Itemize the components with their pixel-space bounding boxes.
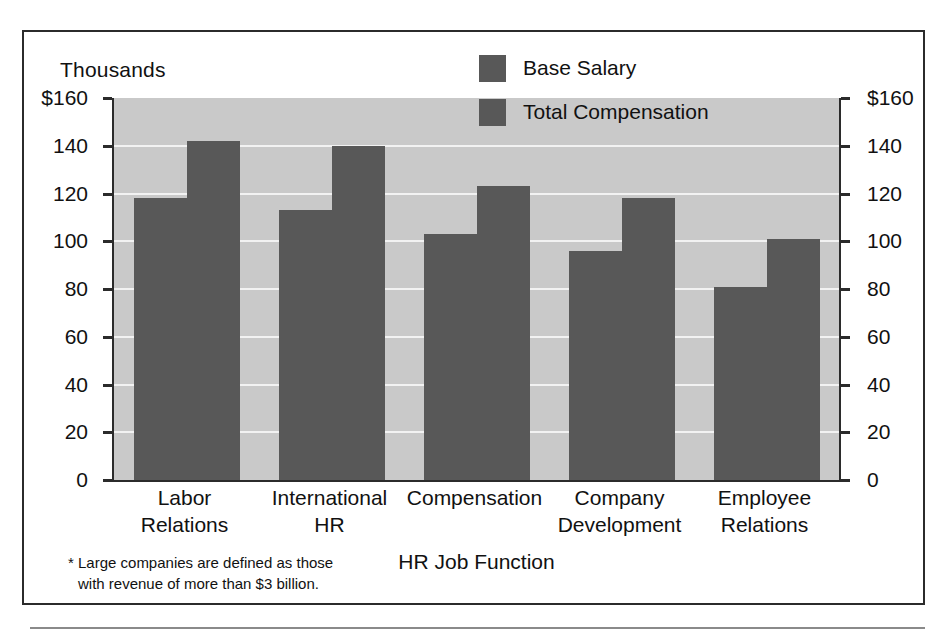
category-label-compensation: Compensation [402,484,547,511]
category-label-employee-relations: EmployeeRelations [692,484,837,538]
y-tick-label-left-140: 140 [53,135,88,156]
bar-base-salary-international-hr [279,210,332,480]
tick-right-40 [841,384,850,387]
y-tick-label-left-40: 40 [65,374,88,395]
category-label-labor-relations: LaborRelations [112,484,257,538]
figure-frame: Thousands 020406080100120140$160 0204060… [22,30,925,605]
y-tick-label-left-80: 80 [65,278,88,299]
footnote-line-1: * Large companies are defined as those [68,552,398,573]
bar-total-compensation-compensation [477,186,530,480]
legend-item-total-compensation[interactable]: Total Compensation [479,90,709,134]
tick-left-80 [103,288,112,291]
y-axis-units-label: Thousands [60,58,166,82]
category-label-line: International [257,484,402,511]
y-tick-label-right-120: 120 [867,183,902,204]
footnote-line-2: with revenue of more than $3 billion. [68,573,398,594]
y-tick-label-right-100: 100 [867,230,902,251]
tick-left-160 [103,97,112,100]
y-tick-label-right-60: 60 [867,326,890,347]
y-tick-label-right-20: 20 [867,421,890,442]
bar-base-salary-labor-relations [134,198,187,480]
category-label-line: HR [257,511,402,538]
tick-left-0 [103,479,112,482]
tick-left-40 [103,384,112,387]
y-tick-label-right-80: 80 [867,278,890,299]
y-tick-label-right-140: 140 [867,135,902,156]
tick-left-120 [103,193,112,196]
bar-total-compensation-employee-relations [767,239,820,480]
tick-right-0 [841,479,850,482]
tick-right-80 [841,288,850,291]
tick-right-160 [841,97,850,100]
tick-right-60 [841,336,850,339]
bar-total-compensation-company-development [622,198,675,480]
category-label-line: Compensation [402,484,547,511]
y-tick-label-right-160: $160 [867,87,914,108]
y-tick-label-left-60: 60 [65,326,88,347]
legend-swatch-icon [479,99,506,126]
legend-label: Base Salary [523,56,636,80]
tick-left-140 [103,145,112,148]
plot-area [112,98,841,482]
legend-swatch-icon [479,55,506,82]
bar-total-compensation-international-hr [332,146,385,480]
y-axis-right: 020406080100120140$160 [851,98,931,480]
category-label-line: Relations [692,511,837,538]
y-tick-label-right-40: 40 [867,374,890,395]
category-label-line: Employee [692,484,837,511]
category-label-line: Company [547,484,692,511]
bar-base-salary-compensation [424,234,477,480]
category-label-international-hr: InternationalHR [257,484,402,538]
page-divider-rule [30,627,925,629]
tick-right-100 [841,240,850,243]
legend-label: Total Compensation [523,100,709,124]
tick-right-120 [841,193,850,196]
y-axis-left: 020406080100120140$160 [24,98,100,480]
tick-right-20 [841,431,850,434]
chart-legend: Base SalaryTotal Compensation [479,46,709,134]
bar-base-salary-employee-relations [714,287,767,480]
y-tick-label-left-100: 100 [53,230,88,251]
bar-total-compensation-labor-relations [187,141,240,480]
category-label-line: Relations [112,511,257,538]
tick-left-60 [103,336,112,339]
y-tick-label-left-20: 20 [65,421,88,442]
category-label-company-development: CompanyDevelopment [547,484,692,538]
category-label-line: Labor [112,484,257,511]
y-tick-label-left-0: 0 [76,469,88,490]
tick-left-20 [103,431,112,434]
x-axis-category-labels: LaborRelationsInternationalHRCompensatio… [112,484,841,544]
tick-right-140 [841,145,850,148]
y-tick-label-right-0: 0 [867,469,879,490]
category-label-line: Development [547,511,692,538]
y-tick-label-left-160: $160 [41,87,88,108]
tick-left-100 [103,240,112,243]
y-tick-label-left-120: 120 [53,183,88,204]
legend-item-base-salary[interactable]: Base Salary [479,46,709,90]
bar-base-salary-company-development [569,251,622,480]
footnote: * Large companies are defined as those w… [68,552,398,594]
